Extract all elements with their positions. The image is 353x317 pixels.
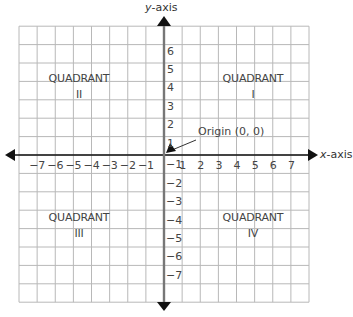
y-tick-label: −4 [166, 215, 182, 226]
y-tick-label: 3 [167, 101, 174, 112]
y-tick-label: 6 [167, 46, 174, 57]
x-tick-label: −2 [120, 160, 136, 171]
x-tick-label: 4 [234, 160, 241, 171]
y-tick-label: 1 [167, 138, 174, 149]
origin-label: Origin (0, 0) [198, 126, 264, 137]
quadrant-4-label: QUADRANT IV [216, 210, 290, 242]
x-tick-label: 3 [215, 160, 222, 171]
y-tick-label: 5 [167, 64, 174, 75]
x-tick-label: −4 [84, 160, 100, 171]
y-tick-label: −3 [166, 196, 182, 207]
x-tick-label: 5 [252, 160, 259, 171]
x-axis-right-arrow-icon [308, 149, 318, 161]
y-tick-label: 2 [167, 119, 174, 130]
x-axis-left-arrow-icon [5, 149, 15, 161]
x-tick-label: −6 [47, 160, 63, 171]
quadrant-2-label: QUADRANT II [42, 71, 116, 103]
x-tick-label: 2 [197, 160, 204, 171]
y-tick-label: −5 [166, 233, 182, 244]
quadrant-1-label: QUADRANT I [216, 71, 290, 103]
y-tick-label: −1 [166, 159, 182, 170]
x-tick-label: −7 [29, 160, 45, 171]
y-tick-label: 4 [167, 82, 174, 93]
quadrant-3-label: QUADRANT III [42, 210, 116, 242]
y-tick-label: −6 [166, 251, 182, 262]
x-axis-title: x-axis [320, 148, 353, 161]
y-axis-up-arrow-icon [157, 16, 171, 26]
origin-pointer-line [172, 140, 196, 150]
y-axis-down-arrow-icon [157, 302, 171, 311]
y-axis-title: y-axis [145, 1, 178, 14]
y-tick-label: −2 [166, 178, 182, 189]
y-tick-label: −7 [166, 270, 182, 281]
x-tick-label: 6 [270, 160, 277, 171]
x-tick-label: 7 [288, 160, 295, 171]
x-tick-label: −3 [102, 160, 118, 171]
x-tick-label: −5 [65, 160, 81, 171]
x-tick-label: −1 [138, 160, 154, 171]
